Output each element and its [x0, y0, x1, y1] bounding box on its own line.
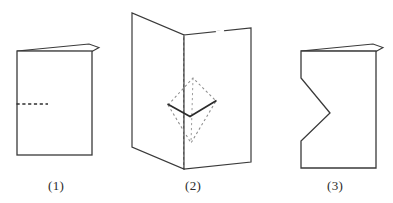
- panel-2-group: [132, 13, 251, 169]
- panel-2-right-panel: [184, 28, 251, 169]
- caption-figure-2: (2): [185, 178, 201, 194]
- panel-3-group: [301, 44, 383, 168]
- panel-3-body-outline: [301, 51, 376, 168]
- caption-figure-3: (3): [327, 178, 343, 194]
- figure-board: (1) (2) (3): [0, 0, 393, 203]
- figure-canvas: [0, 0, 393, 203]
- panel-2-left-panel: [132, 13, 184, 169]
- panel-1-group: [17, 44, 100, 155]
- caption-figure-1: (1): [48, 178, 64, 194]
- panel-1-body-rect: [17, 51, 92, 155]
